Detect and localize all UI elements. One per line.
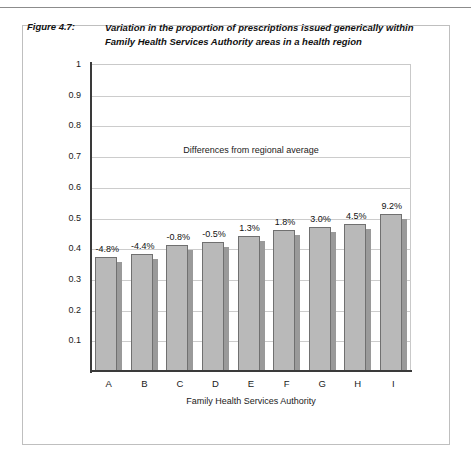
x-tick-label: B	[124, 378, 164, 389]
bar: 1.8%	[273, 230, 300, 371]
bar-body	[202, 242, 224, 371]
x-axis-line	[90, 370, 412, 372]
bar: -4.4%	[131, 254, 158, 371]
gridline	[91, 126, 411, 127]
figure-caption: Variation in the proportion of prescript…	[105, 21, 415, 48]
bar-body	[131, 254, 153, 371]
y-tick-label: 0.4	[47, 243, 81, 253]
bar: 3.0%	[309, 227, 336, 371]
bar-body	[309, 227, 331, 371]
y-tick-label: 0.6	[47, 182, 81, 192]
figure-number: Figure 4.7:	[27, 21, 75, 32]
bar-body	[238, 236, 260, 371]
bar: 4.5%	[344, 224, 371, 371]
bar: 1.3%	[238, 236, 265, 371]
y-tick-label: 0.8	[47, 120, 81, 130]
header-rule	[0, 7, 471, 8]
bar-body	[166, 245, 188, 371]
bar-body	[273, 230, 295, 371]
y-tick-label: 0.2	[47, 305, 81, 315]
x-tick-label: D	[195, 378, 235, 389]
chart-plot-region: Proportion of prescriptions issued gener…	[47, 58, 417, 403]
bar-value-label: 4.5%	[331, 211, 381, 221]
y-tick-label: 0.3	[47, 274, 81, 284]
bar: -4.8%	[95, 257, 122, 371]
bar: -0.5%	[202, 242, 229, 371]
gridline	[91, 188, 411, 189]
bar: 9.2%	[380, 214, 407, 371]
gridline	[91, 96, 411, 97]
bar-value-label: -4.4%	[118, 241, 168, 251]
bar-body	[380, 214, 402, 371]
y-tick-label: 0.1	[47, 335, 81, 345]
bar-value-label: 9.2%	[367, 201, 417, 211]
bar-body	[344, 224, 366, 371]
page-header-artifact	[0, 0, 471, 10]
x-axis-title: Family Health Services Authority	[91, 396, 411, 406]
bar: -0.8%	[166, 245, 193, 371]
y-tick-label: 0.7	[47, 151, 81, 161]
plot-area: -4.8%-4.4%-0.8%-0.5%1.3%1.8%3.0%4.5%9.2%…	[91, 64, 411, 371]
x-tick-label: E	[231, 378, 271, 389]
y-axis-line	[90, 62, 92, 373]
gridline	[91, 157, 411, 158]
x-tick-label: H	[338, 378, 378, 389]
x-tick-label: C	[160, 378, 200, 389]
chart-annotation: Differences from regional average	[91, 145, 411, 155]
x-tick-label: I	[373, 378, 413, 389]
x-tick-label: G	[302, 378, 342, 389]
y-tick-label: 0.9	[47, 90, 81, 100]
x-tick-label: A	[89, 378, 129, 389]
x-tick-label: F	[267, 378, 307, 389]
y-tick-label: 0.5	[47, 213, 81, 223]
bar-body	[95, 257, 117, 371]
y-tick-label: 1	[47, 59, 81, 69]
